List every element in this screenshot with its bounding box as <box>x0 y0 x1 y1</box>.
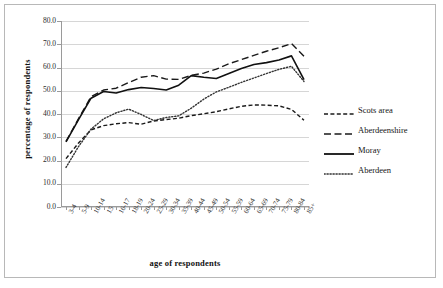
legend-swatch-icon <box>324 165 354 175</box>
x-axis-tick-mark <box>166 206 167 210</box>
y-axis-tick-mark <box>57 137 61 138</box>
legend-swatch-icon <box>324 125 354 135</box>
x-axis-tick-mark <box>216 206 217 210</box>
legend-label: Aberdeen <box>358 165 391 175</box>
y-axis-tick-label: 40.0 <box>22 110 56 118</box>
legend-swatch-icon <box>324 145 354 155</box>
legend-label: Moray <box>358 145 381 155</box>
y-axis-tick-label: 0.0 <box>22 203 56 211</box>
legend-item-aberdeen[interactable]: Aberdeen <box>324 160 436 180</box>
chart-figure: percentage of respondents age of respond… <box>0 0 443 288</box>
x-axis-tick-mark <box>254 206 255 210</box>
y-axis-tick-mark <box>57 21 61 22</box>
y-axis-tick-mark <box>57 68 61 69</box>
y-axis-tick-label: 70.0 <box>22 40 56 48</box>
chart-plot-region: percentage of respondents age of respond… <box>0 0 443 288</box>
x-axis-tick-mark <box>266 206 267 210</box>
x-axis-tick-mark <box>191 206 192 210</box>
series-line-aberdeen <box>66 66 304 167</box>
x-axis-tick-mark <box>279 206 280 210</box>
y-axis-tick-labels: 80.070.060.050.040.030.020.010.00.0 <box>22 0 56 288</box>
x-axis-tick-mark <box>304 206 305 210</box>
x-axis-tick-mark <box>204 206 205 210</box>
legend-label: Scots area <box>358 105 393 115</box>
y-axis-tick-mark <box>57 207 61 208</box>
legend-label: Aberdeenshire <box>358 125 408 135</box>
x-axis-tick-mark <box>104 206 105 210</box>
legend-item-aberdeenshire[interactable]: Aberdeenshire <box>324 120 436 140</box>
y-axis-tick-label: 50.0 <box>22 86 56 94</box>
y-axis-tick-mark <box>57 161 61 162</box>
x-axis-tick-mark <box>141 206 142 210</box>
x-axis-tick-mark <box>291 206 292 210</box>
y-axis-tick-label: 20.0 <box>22 156 56 164</box>
x-axis-tick-mark <box>179 206 180 210</box>
x-axis-tick-mark <box>154 206 155 210</box>
x-axis-tick-mark <box>116 206 117 210</box>
series-lines <box>61 21 309 207</box>
y-axis-tick-label: 80.0 <box>22 17 56 25</box>
x-axis-tick-mark <box>91 206 92 210</box>
legend-item-scots-area[interactable]: Scots area <box>324 100 436 120</box>
series-line-moray <box>66 56 304 142</box>
x-axis-tick-mark <box>66 206 67 210</box>
x-axis-tick-mark <box>79 206 80 210</box>
y-axis-tick-label: 10.0 <box>22 179 56 187</box>
legend-item-moray[interactable]: Moray <box>324 140 436 160</box>
y-axis-tick-label: 60.0 <box>22 63 56 71</box>
y-axis-tick-mark <box>57 114 61 115</box>
y-axis-tick-mark <box>57 44 61 45</box>
y-axis-tick-label: 30.0 <box>22 133 56 141</box>
y-axis-tick-mark <box>57 91 61 92</box>
series-line-scots-area <box>66 105 304 159</box>
x-axis-tick-mark <box>229 206 230 210</box>
chart-legend: Scots areaAberdeenshireMorayAberdeen <box>324 100 436 180</box>
x-axis-tick-mark <box>129 206 130 210</box>
legend-swatch-icon <box>324 105 354 115</box>
x-axis-tick-mark <box>241 206 242 210</box>
y-axis-tick-mark <box>57 184 61 185</box>
